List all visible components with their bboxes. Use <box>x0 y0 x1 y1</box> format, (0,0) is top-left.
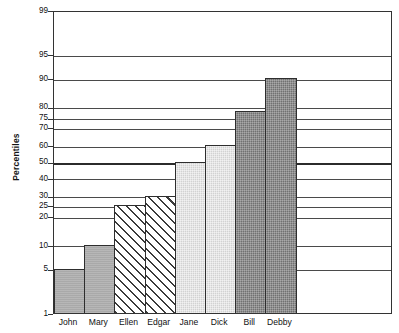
y-tick-label-5: 5 <box>18 265 48 273</box>
y-tick-label-99: 99 <box>18 7 48 15</box>
y-tick-mark-1 <box>48 314 53 315</box>
y-tick-label-30: 30 <box>18 192 48 200</box>
percentiles-bar-chart: Percentiles 1510202530405060707580909599… <box>0 0 399 333</box>
bar-mary <box>84 245 115 313</box>
y-tick-label-50: 50 <box>18 158 48 166</box>
gridline-90 <box>54 80 391 81</box>
bar-ellen <box>114 205 145 313</box>
y-tick-label-80: 80 <box>18 103 48 111</box>
bar-debby <box>265 78 296 313</box>
x-tick-label-debby: Debby <box>258 318 300 327</box>
gridline-75 <box>54 119 391 120</box>
gridline-70 <box>54 129 391 130</box>
y-tick-label-40: 40 <box>18 175 48 183</box>
bar-dick <box>205 145 236 313</box>
plot-area <box>53 11 392 314</box>
y-tick-label-95: 95 <box>18 51 48 59</box>
y-tick-label-60: 60 <box>18 142 48 150</box>
gridline-80 <box>54 108 391 109</box>
y-tick-label-75: 75 <box>18 114 48 122</box>
y-tick-label-70: 70 <box>18 124 48 132</box>
y-tick-label-10: 10 <box>18 242 48 250</box>
y-tick-label-1: 1 <box>18 310 48 318</box>
y-tick-label-20: 20 <box>18 213 48 221</box>
gridline-95 <box>54 56 391 57</box>
y-tick-label-90: 90 <box>18 75 48 83</box>
bar-john <box>54 269 85 313</box>
bar-jane <box>175 162 206 314</box>
bar-bill <box>235 111 266 313</box>
y-tick-label-25: 25 <box>18 202 48 210</box>
bar-edgar <box>145 196 176 313</box>
